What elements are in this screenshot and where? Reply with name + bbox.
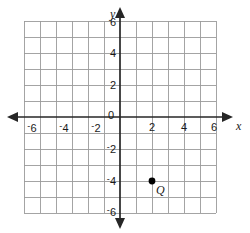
y-axis [115,7,125,229]
point-label-q: Q [156,184,165,196]
x-tick-label--2: -2 [91,122,100,134]
y-tick-label--4: -4 [96,175,116,187]
coordinate-plane-figure: -6 -4 -2 2 4 6 6 4 2 -2 -4 -6 0 y x Q [0,0,250,233]
y-tick-label--2: -2 [96,143,116,155]
plotted-point-q [149,178,156,185]
x-axis-arrow-left [7,112,18,122]
y-tick-label-2: 2 [100,80,116,91]
x-axis-arrow-right [222,112,233,122]
origin-label: 0 [108,110,114,121]
y-axis-arrow-up [115,7,125,18]
x-tick-label-6: 6 [211,122,217,133]
x-tick-label--6: -6 [27,122,36,134]
y-tick-label-4: 4 [100,48,116,59]
coordinate-plane-svg [0,0,250,233]
x-tick-label-2: 2 [149,122,155,133]
x-tick-label--4: -4 [59,122,68,134]
y-axis-arrow-down [115,218,125,229]
y-axis-label: y [110,8,115,20]
x-tick-label-4: 4 [181,122,187,133]
y-tick-label--6: -6 [96,206,116,218]
x-axis-label: x [236,120,241,132]
